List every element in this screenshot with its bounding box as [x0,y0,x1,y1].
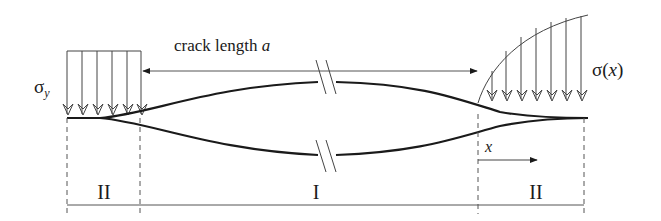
left-stress-block [63,51,147,115]
region-label-left: II [97,181,110,203]
sigma-y-label: σy [34,76,50,100]
crack-length-label: crack length a [174,36,270,55]
crack-diagram: σy crack length a [0,0,661,221]
region-boundaries [67,114,584,214]
x-axis-label: x [484,138,492,155]
right-stress-distribution [478,15,588,103]
break-marks [316,60,336,172]
sigma-x-label: σ(x) [592,59,623,81]
region-label-center: I [313,181,320,203]
region-label-right: II [529,181,542,203]
